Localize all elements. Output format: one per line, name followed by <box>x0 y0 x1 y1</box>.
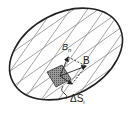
label-b-normal: Bn <box>62 42 72 53</box>
label-b: B <box>83 55 90 66</box>
label-delta-s: ΔSi <box>70 93 85 105</box>
surface-diagram: B Bn ΔSi <box>0 0 129 115</box>
shaded-patch <box>47 65 71 87</box>
